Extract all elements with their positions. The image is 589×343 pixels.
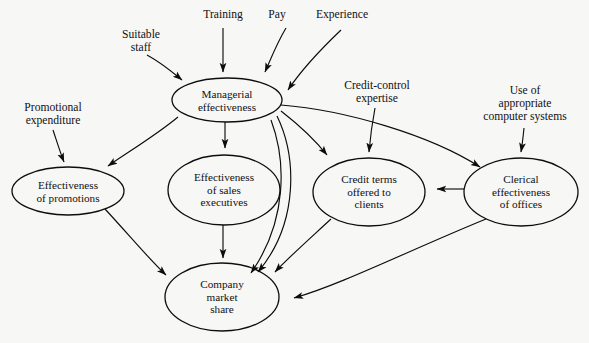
edge-suitable-staff-to-managerial xyxy=(147,55,182,80)
node-managerial-effectiveness[interactable] xyxy=(172,78,282,122)
edge-managerial-to-promotions xyxy=(108,117,178,166)
edge-experience-to-managerial xyxy=(288,30,341,90)
diagram-canvas: Managerial effectiveness Effectiveness o… xyxy=(0,0,589,343)
node-clerical-effectiveness-of-offices[interactable] xyxy=(464,158,578,226)
node-credit-terms-offered-to-clients[interactable] xyxy=(313,158,425,226)
edge-credit-control-expertise-to-credit-terms xyxy=(369,108,375,152)
edge-managerial-to-market-share-outer xyxy=(258,116,291,272)
edge-clerical-to-market-share xyxy=(294,219,486,298)
edge-promotions-to-market-share xyxy=(105,209,166,275)
edge-managerial-to-market-share-inner xyxy=(251,120,281,273)
influence-diagram xyxy=(0,0,589,343)
node-effectiveness-of-promotions[interactable] xyxy=(12,167,124,215)
edge-pay-to-managerial xyxy=(265,28,286,72)
edge-computer-systems-to-clerical xyxy=(521,128,524,152)
edge-promotional-expenditure-to-promotions xyxy=(53,130,64,162)
node-effectiveness-of-sales-executives[interactable] xyxy=(168,155,280,225)
edge-managerial-to-clerical xyxy=(281,105,480,167)
node-company-market-share[interactable] xyxy=(165,263,279,331)
